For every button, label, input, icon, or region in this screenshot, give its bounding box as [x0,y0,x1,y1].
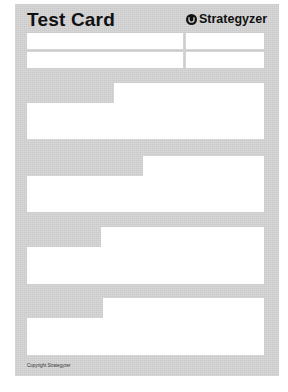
brand-name: Strategyzer [199,11,267,27]
section-1-header-field[interactable] [114,83,264,104]
section-4-header-field[interactable] [103,298,264,319]
section-2-header-field[interactable] [143,156,264,177]
card-section-3 [27,227,264,284]
section-3-body-field[interactable] [27,247,264,284]
section-4-body-field[interactable] [27,318,264,355]
copyright-text: Copyright Strategyzer [27,363,71,369]
section-1-body-field[interactable] [27,103,264,139]
section-2-body-field[interactable] [27,176,264,212]
test-card: Test Card Strategyzer Copyright Strategy… [15,4,279,376]
card-section-2 [27,156,264,212]
brand-logo: Strategyzer [186,11,267,27]
header-field-row1-right[interactable] [186,33,264,49]
card-section-4 [27,298,264,355]
card-title: Test Card [27,9,115,31]
section-3-header-field[interactable] [101,227,264,248]
header-field-row2-right[interactable] [186,52,264,68]
header-field-row2-left[interactable] [27,52,183,68]
strategyzer-logo-icon [186,14,197,25]
card-section-1 [27,83,264,139]
header-field-row1-left[interactable] [27,33,183,49]
